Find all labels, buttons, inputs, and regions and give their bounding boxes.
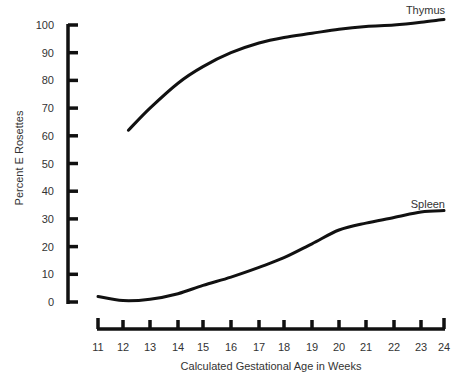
- x-tick-label: 22: [388, 341, 400, 353]
- x-tick-label: 24: [438, 341, 450, 353]
- x-tick-label: 14: [172, 341, 184, 353]
- series-lines: [98, 20, 444, 301]
- series-label-thymus: Thymus: [406, 4, 446, 16]
- y-tick-label: 30: [42, 213, 54, 225]
- x-tick-label: 21: [360, 341, 372, 353]
- y-tick-label: 20: [42, 241, 54, 253]
- x-axis: 1112131415161718192021222324: [92, 318, 450, 353]
- y-tick-label: 60: [42, 130, 54, 142]
- series-label-spleen: Spleen: [411, 198, 445, 210]
- x-tick-label: 13: [144, 341, 156, 353]
- x-tick-label: 17: [253, 341, 265, 353]
- y-tick-label: 80: [42, 74, 54, 86]
- y-tick-label: 90: [42, 47, 54, 59]
- x-axis-title: Calculated Gestational Age in Weeks: [181, 360, 362, 372]
- line-chart: 0102030405060708090100 11121314151617181…: [0, 0, 457, 385]
- x-tick-label: 16: [225, 341, 237, 353]
- x-tick-label: 15: [197, 341, 209, 353]
- x-tick-label: 19: [306, 341, 318, 353]
- y-axis-title: Percent E Rosettes: [13, 110, 25, 205]
- y-tick-label: 100: [36, 19, 54, 31]
- series-line-thymus: [128, 20, 444, 131]
- y-tick-label: 70: [42, 102, 54, 114]
- x-tick-label: 23: [415, 341, 427, 353]
- series-line-spleen: [98, 211, 444, 301]
- y-tick-label: 0: [48, 296, 54, 308]
- x-tick-label: 18: [278, 341, 290, 353]
- x-tick-label: 20: [333, 341, 345, 353]
- y-tick-label: 50: [42, 158, 54, 170]
- y-axis: 0102030405060708090100: [36, 19, 78, 308]
- y-tick-label: 40: [42, 185, 54, 197]
- y-tick-label: 10: [42, 268, 54, 280]
- x-tick-label: 11: [92, 341, 103, 353]
- x-tick-label: 12: [117, 341, 129, 353]
